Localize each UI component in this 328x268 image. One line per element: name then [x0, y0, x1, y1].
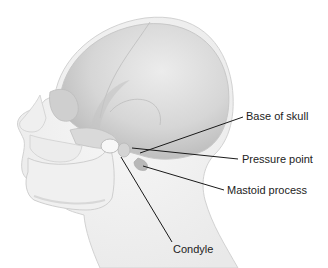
label-mastoid-process: Mastoid process	[227, 184, 307, 196]
label-condyle: Condyle	[173, 243, 213, 255]
label-base-of-skull: Base of skull	[246, 110, 308, 122]
label-pressure-point: Pressure point	[242, 153, 313, 165]
head-illustration	[0, 0, 328, 268]
anatomy-diagram: Base of skull Pressure point Mastoid pro…	[0, 0, 328, 268]
ear-canal	[101, 139, 119, 153]
condyle-shape	[118, 143, 130, 157]
